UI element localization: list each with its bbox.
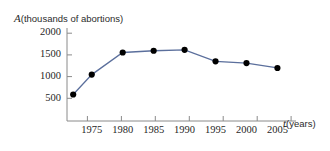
x-tick-label-1985: 1985 bbox=[137, 124, 171, 135]
data-point-markers bbox=[70, 47, 280, 98]
data-point-1975 bbox=[89, 72, 95, 78]
chart-axes bbox=[67, 28, 296, 121]
data-point-2000 bbox=[243, 60, 249, 66]
y-axis-label: A(thousands of abortions) bbox=[14, 8, 123, 26]
y-axis-variable: A bbox=[14, 12, 21, 24]
data-point-1972 bbox=[70, 91, 76, 97]
data-point-1985 bbox=[151, 48, 157, 54]
y-tick-label-1000: 1000 bbox=[27, 70, 61, 81]
x-tick-label-1975: 1975 bbox=[75, 124, 109, 135]
y-tick-label-2000: 2000 bbox=[27, 26, 61, 37]
x-tick-label-1990: 1990 bbox=[168, 124, 202, 135]
chart-figure: A(thousands of abortions) t(years) 50010… bbox=[0, 0, 330, 151]
data-point-1980 bbox=[120, 49, 126, 55]
x-tick-label-2005: 2005 bbox=[260, 124, 294, 135]
y-axis-unit: (thousands of abortions) bbox=[21, 13, 123, 24]
data-point-1990 bbox=[181, 47, 187, 53]
x-tick-label-2000: 2000 bbox=[229, 124, 263, 135]
y-tick-label-500: 500 bbox=[27, 92, 61, 103]
y-tick-label-1500: 1500 bbox=[27, 48, 61, 59]
data-point-1995 bbox=[212, 58, 218, 64]
data-series-line bbox=[73, 50, 277, 95]
data-point-2005 bbox=[274, 65, 280, 71]
x-tick-label-1995: 1995 bbox=[199, 124, 233, 135]
x-tick-label-1980: 1980 bbox=[106, 124, 140, 135]
y-axis-ticks bbox=[67, 33, 72, 98]
x-axis-ticks bbox=[87, 116, 291, 121]
